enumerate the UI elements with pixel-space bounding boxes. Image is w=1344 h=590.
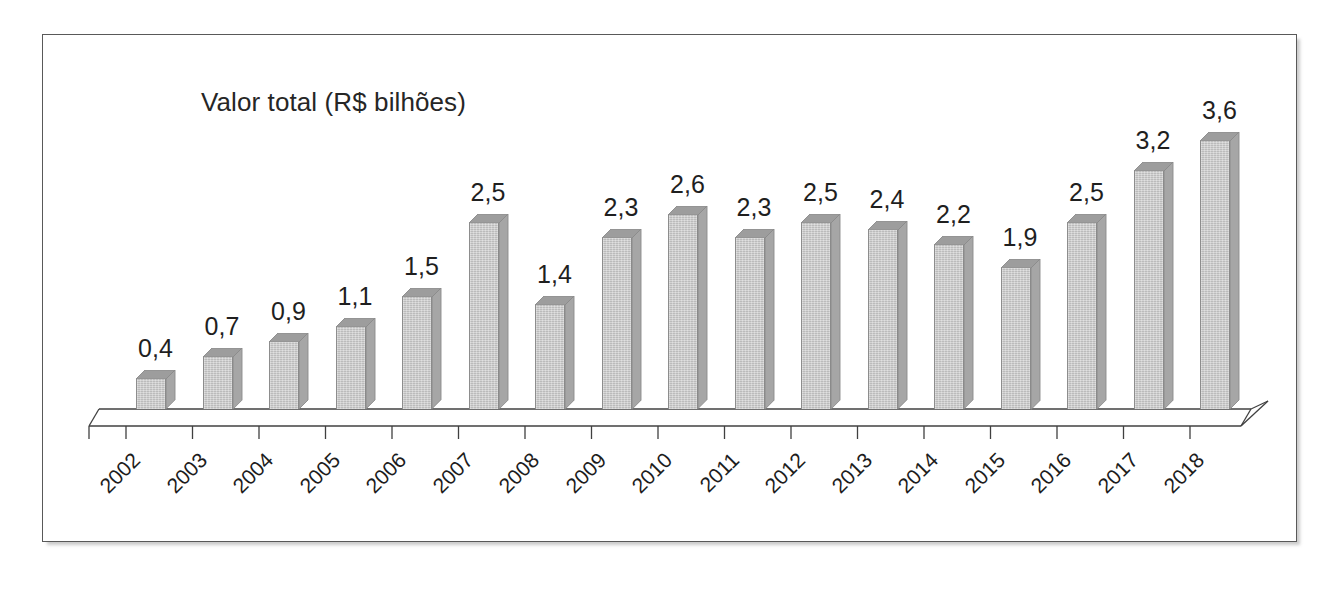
bar-front-face — [535, 305, 565, 409]
bar-side-face — [499, 214, 510, 411]
chart-frame: Valor total (R$ bilhões) — [42, 34, 1297, 542]
bar-front-face — [269, 342, 299, 409]
x-axis-label-2015: 2015 — [947, 448, 1009, 510]
bar-side-face — [964, 236, 975, 411]
bar-value-label: 2,3 — [719, 193, 789, 222]
bar-side-face — [632, 229, 643, 411]
bar-side-face — [765, 229, 776, 411]
x-axis-label-2004: 2004 — [216, 448, 278, 510]
floor-right-edge — [1241, 409, 1251, 426]
bar-value-label: 2,5 — [453, 178, 523, 207]
x-axis-label-2016: 2016 — [1014, 448, 1076, 510]
bar-front-face — [402, 297, 432, 409]
bar-side-face — [366, 318, 377, 411]
x-axis-label-2012: 2012 — [748, 448, 810, 510]
bar-value-label: 1,5 — [387, 252, 457, 281]
floor-left-edge — [89, 409, 99, 426]
bar-front-face — [336, 327, 366, 409]
bar-front-face — [934, 245, 964, 409]
bar-side-face — [831, 214, 842, 411]
bar-front-face — [1200, 141, 1230, 409]
bar-value-label: 2,2 — [919, 200, 989, 229]
bar-value-label: 2,3 — [586, 193, 656, 222]
bar-value-label: 0,9 — [254, 297, 324, 326]
bar-side-face — [698, 206, 709, 411]
bar-value-label: 0,4 — [121, 334, 191, 363]
bar-side-face — [299, 333, 310, 411]
bar-2002 — [136, 370, 176, 409]
x-axis-label-2006: 2006 — [349, 448, 411, 510]
x-axis-label-2014: 2014 — [881, 448, 943, 510]
bar-front-face — [1067, 223, 1097, 409]
bar-value-label: 3,6 — [1185, 96, 1255, 125]
x-axis-ticks — [126, 426, 1190, 439]
bar-2018 — [1200, 132, 1240, 409]
bar-2016 — [1067, 214, 1107, 409]
bar-front-face — [735, 238, 765, 409]
bar-value-label: 2,4 — [852, 185, 922, 214]
bar-front-face — [668, 215, 698, 409]
bar-value-label: 1,1 — [320, 282, 390, 311]
x-axis-label-2018: 2018 — [1147, 448, 1209, 510]
bar-side-face — [1097, 214, 1108, 411]
bar-value-label: 2,5 — [786, 178, 856, 207]
bar-2006 — [402, 288, 442, 409]
bar-2015 — [1001, 259, 1041, 409]
bar-2007 — [469, 214, 509, 409]
x-axis-label-2017: 2017 — [1080, 448, 1142, 510]
x-axis-label-2010: 2010 — [615, 448, 677, 510]
bar-2005 — [336, 318, 376, 409]
x-axis-label-2005: 2005 — [282, 448, 344, 510]
bar-front-face — [1001, 268, 1031, 409]
bar-2004 — [269, 333, 309, 409]
floor-right-top — [1251, 401, 1268, 409]
bar-value-label: 3,2 — [1118, 126, 1188, 155]
chart-screenshot: Valor total (R$ bilhões) — [0, 0, 1344, 590]
bar-front-face — [136, 379, 166, 409]
bar-value-label: 2,5 — [1052, 178, 1122, 207]
x-axis-label-2009: 2009 — [548, 448, 610, 510]
plot-area: 0,40,70,91,11,52,51,42,32,62,32,52,42,21… — [43, 35, 1298, 543]
bar-value-label: 1,4 — [520, 260, 590, 289]
bar-front-face — [868, 230, 898, 409]
bar-value-label: 1,9 — [985, 223, 1055, 252]
bar-side-face — [1164, 162, 1175, 411]
bar-value-label: 0,7 — [187, 312, 257, 341]
bar-side-face — [898, 221, 909, 411]
bar-side-face — [565, 296, 576, 411]
bar-2009 — [602, 229, 642, 409]
bar-2003 — [203, 348, 243, 409]
bar-front-face — [602, 238, 632, 409]
x-axis-label-2003: 2003 — [149, 448, 211, 510]
bar-2011 — [735, 229, 775, 409]
x-axis-label-2013: 2013 — [814, 448, 876, 510]
x-axis-label-2007: 2007 — [415, 448, 477, 510]
bar-2013 — [868, 221, 908, 409]
bar-2010 — [668, 206, 708, 409]
bar-2017 — [1134, 162, 1174, 409]
bar-front-face — [469, 223, 499, 409]
bar-2012 — [801, 214, 841, 409]
bar-front-face — [801, 223, 831, 409]
bar-front-face — [203, 357, 233, 409]
bar-2014 — [934, 236, 974, 409]
bar-2008 — [535, 296, 575, 409]
floor-right-depth — [1241, 401, 1268, 426]
bar-side-face — [1230, 132, 1241, 411]
x-axis-label-2008: 2008 — [482, 448, 544, 510]
x-axis-label-2002: 2002 — [83, 448, 145, 510]
bar-value-label: 2,6 — [653, 170, 723, 199]
bar-side-face — [1031, 259, 1042, 411]
bar-side-face — [432, 288, 443, 411]
x-axis-label-2011: 2011 — [681, 448, 743, 510]
bar-front-face — [1134, 171, 1164, 409]
